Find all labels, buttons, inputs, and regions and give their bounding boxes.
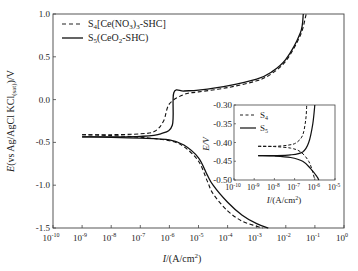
svg-text:-1.0: -1.0 [36, 180, 51, 190]
inset-y-label: E/V [201, 136, 211, 152]
svg-text:10-10: 10-10 [43, 232, 60, 243]
svg-text:-0.45: -0.45 [213, 156, 232, 166]
svg-text:10-2: 10-2 [277, 232, 291, 243]
svg-text:10-3: 10-3 [248, 232, 262, 243]
svg-text:1.0: 1.0 [39, 9, 51, 19]
svg-text:10-9: 10-9 [73, 232, 87, 243]
svg-text:10-8: 10-8 [267, 182, 280, 192]
inset-plot: 10-1010-910-810-710-610-5-0.30-0.35-0.40… [201, 100, 341, 205]
svg-text:10-8: 10-8 [102, 232, 116, 243]
polarization-chart: 10-1010-910-810-710-610-510-410-310-210-… [0, 0, 358, 271]
svg-text:-0.40: -0.40 [213, 138, 232, 148]
inset-x-label: I/(A/cm2) [266, 195, 302, 205]
svg-text:-1.5: -1.5 [36, 223, 51, 233]
svg-text:10-5: 10-5 [328, 182, 341, 192]
svg-text:10-7: 10-7 [131, 232, 145, 243]
svg-text:0.5: 0.5 [39, 52, 51, 62]
svg-text:100: 100 [336, 232, 348, 243]
legend-s5-label: S5(CeO2-SHC) [88, 32, 148, 45]
x-axis-label: I/(A/cm2) [162, 252, 202, 265]
main-legend: S4[Ce(NO3)3-SHC] S5(CeO2-SHC) [62, 18, 166, 45]
svg-text:10-4: 10-4 [219, 232, 233, 243]
svg-text:-0.5: -0.5 [36, 137, 51, 147]
svg-text:10-6: 10-6 [308, 182, 321, 192]
svg-text:10-6: 10-6 [160, 232, 174, 243]
svg-text:-0.30: -0.30 [213, 100, 232, 110]
svg-text:10-7: 10-7 [287, 182, 300, 192]
svg-text:-0.50: -0.50 [213, 175, 232, 185]
y-axis-label: E(vs Ag/AgCl KCl(sat))/V [5, 69, 18, 173]
svg-text:-0.35: -0.35 [213, 119, 232, 129]
svg-text:0.0: 0.0 [39, 95, 51, 105]
svg-text:10-9: 10-9 [247, 182, 260, 192]
svg-text:10-5: 10-5 [190, 232, 204, 243]
legend-s4-label: S4[Ce(NO3)3-SHC] [88, 18, 166, 31]
svg-text:10-1: 10-1 [306, 232, 320, 243]
